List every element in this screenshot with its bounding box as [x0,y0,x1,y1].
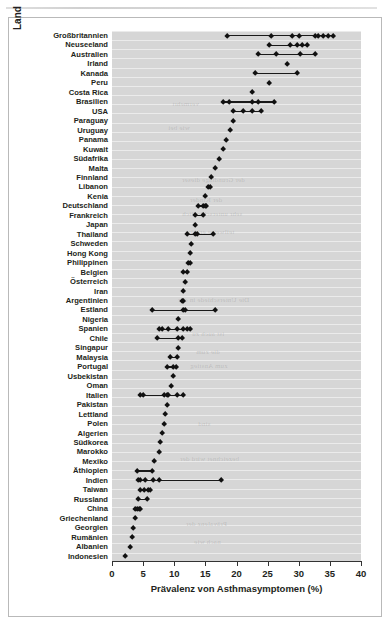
country-row[interactable]: Deutschland [0,201,391,210]
country-row[interactable]: Algerien [0,429,391,438]
data-point[interactable] [312,52,318,58]
data-point[interactable] [129,534,135,540]
data-point[interactable] [250,108,256,114]
data-point[interactable] [154,335,160,341]
country-row[interactable]: Costa Rica [0,88,391,97]
data-point[interactable] [255,99,261,105]
country-row[interactable]: Irland [0,59,391,68]
data-point[interactable] [284,61,290,67]
country-row[interactable]: Nigeria [0,315,391,324]
data-point[interactable] [184,269,190,275]
country-row[interactable]: Kenia [0,192,391,201]
country-row[interactable]: Estland [0,305,391,314]
data-point[interactable] [298,52,304,58]
data-point[interactable] [271,99,277,105]
data-point[interactable] [175,317,181,323]
data-point[interactable] [159,430,165,436]
data-point[interactable] [162,411,168,417]
data-point[interactable] [122,553,128,559]
data-point[interactable] [167,354,173,360]
data-point[interactable] [156,449,162,455]
country-row[interactable]: Lettland [0,410,391,419]
data-point[interactable] [179,335,185,341]
country-row[interactable]: Finnland [0,173,391,182]
data-point[interactable] [223,137,229,143]
data-point[interactable] [288,42,294,48]
country-row[interactable]: Iran [0,287,391,296]
data-point[interactable] [180,288,186,294]
data-point[interactable] [240,108,246,114]
data-point[interactable] [135,496,141,502]
country-row[interactable]: Neuseeland [0,40,391,49]
data-point[interactable] [258,108,264,114]
data-point[interactable] [175,345,181,351]
data-point[interactable] [208,175,214,181]
data-point[interactable] [331,33,337,39]
data-point[interactable] [164,402,170,408]
data-point[interactable] [202,194,208,200]
country-row[interactable]: Malta [0,164,391,173]
country-row[interactable]: Singapur [0,343,391,352]
data-point[interactable] [150,477,156,483]
country-row[interactable]: Argentinien [0,296,391,305]
country-row[interactable]: Südafrika [0,154,391,163]
data-point[interactable] [180,298,186,304]
data-point[interactable] [296,33,302,39]
data-point[interactable] [224,33,230,39]
country-row[interactable]: USA [0,107,391,116]
data-point[interactable] [182,307,188,313]
country-row[interactable]: Indonesien [0,552,391,561]
data-point[interactable] [218,477,224,483]
data-point[interactable] [266,42,272,48]
data-point[interactable] [156,477,162,483]
data-point[interactable] [149,468,155,474]
data-point[interactable] [192,212,198,218]
data-point[interactable] [227,99,233,105]
country-row[interactable]: Großbritannien [0,31,391,40]
country-row[interactable]: Frankreich [0,211,391,220]
data-point[interactable] [144,496,150,502]
data-point[interactable] [138,506,144,512]
country-row[interactable]: Kanada [0,69,391,78]
country-row[interactable]: Griechenland [0,514,391,523]
country-row[interactable]: Kuwait [0,145,391,154]
country-row[interactable]: Paraguay [0,116,391,125]
data-point[interactable] [210,231,216,237]
country-row[interactable]: Portugal [0,362,391,371]
data-point[interactable] [212,307,218,313]
data-point[interactable] [227,127,233,133]
country-row[interactable]: Polen [0,419,391,428]
country-row[interactable]: Australien [0,50,391,59]
country-row[interactable]: Libanon [0,182,391,191]
country-row[interactable]: Indien [0,476,391,485]
country-row[interactable]: Brasilien [0,97,391,106]
country-row[interactable]: Italien [0,391,391,400]
data-point[interactable] [289,33,295,39]
country-row[interactable]: Georgien [0,523,391,532]
data-point[interactable] [294,70,300,76]
data-point[interactable] [143,477,149,483]
country-row[interactable]: Taiwan [0,485,391,494]
data-point[interactable] [149,307,155,313]
data-point[interactable] [200,212,206,218]
country-row[interactable]: Peru [0,78,391,87]
data-point[interactable] [174,354,180,360]
data-point[interactable] [184,231,190,237]
country-row[interactable]: Chile [0,334,391,343]
country-row[interactable]: Südkorea [0,438,391,447]
country-row[interactable]: Albanien [0,542,391,551]
data-point[interactable] [187,250,193,256]
country-row[interactable]: Hong Kong [0,249,391,258]
country-row[interactable]: Thailand [0,230,391,239]
country-row[interactable]: Usbekistan [0,372,391,381]
data-point[interactable] [255,52,261,58]
data-point[interactable] [180,392,186,398]
data-point[interactable] [250,89,256,95]
data-point[interactable] [134,468,140,474]
data-point[interactable] [268,33,274,39]
country-row[interactable]: Panama [0,135,391,144]
country-row[interactable]: China [0,504,391,513]
country-row[interactable]: Philippinen [0,258,391,267]
data-point[interactable] [230,118,236,124]
data-point[interactable] [187,326,193,332]
